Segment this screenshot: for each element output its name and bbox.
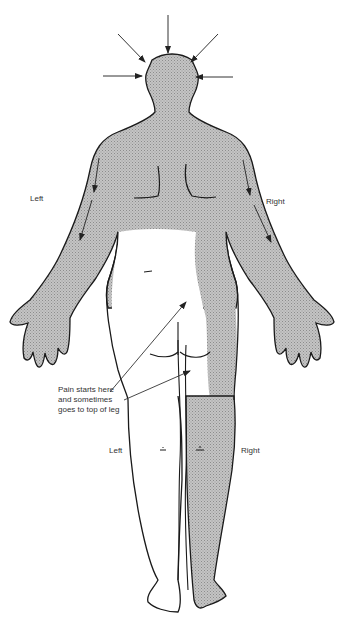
- label-left-upper: Left: [30, 194, 43, 204]
- label-right-lower: Right: [241, 446, 260, 456]
- body-diagram: [0, 0, 353, 628]
- annotation-line-2: and sometimes: [58, 395, 119, 405]
- annotation-line-3: goes to top of leg: [58, 405, 119, 415]
- annotation-line-1: Pain starts here: [58, 385, 119, 395]
- pain-annotation: Pain starts here and sometimes goes to t…: [58, 385, 119, 415]
- label-left-lower: Left: [109, 446, 122, 456]
- left-leg: [128, 396, 182, 612]
- right-leg: [186, 396, 235, 608]
- label-right-upper: Right: [266, 197, 285, 207]
